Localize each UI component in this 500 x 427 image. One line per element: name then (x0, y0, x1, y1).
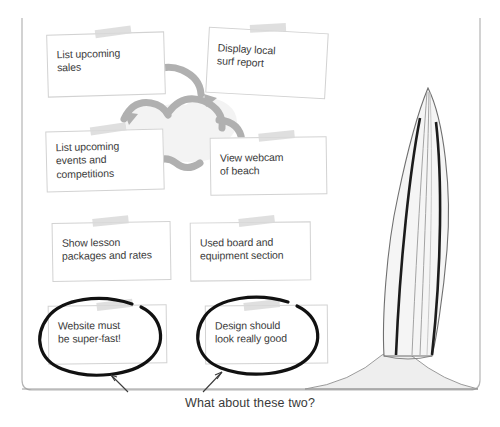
whiteboard-canvas: List upcoming sales Display local surf r… (0, 0, 500, 427)
sticky-note-website-must-be-super-fast[interactable]: Website must be super-fast! (48, 304, 168, 364)
tape-strip-icon (258, 130, 295, 142)
sticky-note-view-webcam-of-beach[interactable]: View webcam of beach (210, 136, 328, 196)
tape-strip-icon (243, 299, 280, 311)
sticky-note-text: Website must be super-fast! (58, 318, 160, 346)
sticky-notes-group: List upcoming sales Display local surf r… (0, 0, 500, 427)
sticky-note-text: List upcoming sales (57, 46, 159, 76)
sticky-note-list-upcoming-sales[interactable]: List upcoming sales (46, 31, 166, 97)
sticky-note-list-upcoming-events[interactable]: List upcoming events and competitions (45, 129, 164, 193)
tape-strip-icon (250, 23, 286, 33)
sticky-note-design-should-look-really-good[interactable]: Design should look really good (205, 304, 329, 364)
tape-strip-icon (238, 215, 275, 227)
sticky-note-text: Design should look really good (215, 319, 321, 347)
tape-strip-icon (95, 25, 132, 38)
sticky-note-show-lesson-packages[interactable]: Show lesson packages and rates (52, 221, 172, 282)
sticky-note-used-board-equipment[interactable]: Used board and equipment section (190, 221, 312, 281)
sticky-note-text: Display local surf report (217, 41, 321, 74)
sticky-note-display-local-surf-report[interactable]: Display local surf report (205, 27, 328, 100)
sticky-note-text: Show lesson packages and rates (62, 235, 164, 263)
sticky-note-text: View webcam of beach (220, 150, 320, 178)
tape-strip-icon (96, 299, 133, 311)
tape-strip-icon (90, 122, 127, 135)
sticky-note-text: List upcoming events and competitions (56, 139, 158, 182)
tape-strip-icon (92, 215, 129, 227)
sticky-note-text: Used board and equipment section (200, 235, 304, 263)
